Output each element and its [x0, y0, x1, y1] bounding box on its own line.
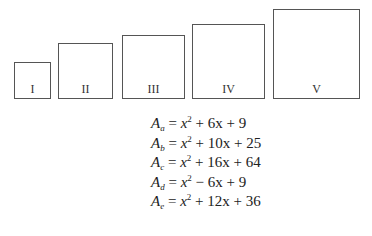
eq-equals: =: [164, 154, 180, 170]
area-equations: Aa = x2 + 6x + 9 Ab = x2 + 10x + 25 Ac =…: [151, 114, 261, 212]
eq-equals: =: [164, 193, 180, 209]
square-label: II: [59, 82, 112, 97]
equation-d: Ad = x2 − 6x + 9: [151, 173, 261, 193]
square-label: I: [15, 82, 50, 97]
equation-e: Ae = x2 + 12x + 36: [151, 192, 261, 212]
square-iii: III: [122, 35, 185, 99]
eq-rest: − 6x + 9: [192, 174, 246, 190]
eq-rest: + 6x + 9: [192, 115, 246, 131]
eq-var: A: [151, 135, 160, 151]
eq-var: A: [151, 154, 160, 170]
equation-a: Aa = x2 + 6x + 9: [151, 114, 261, 134]
eq-x: x: [180, 154, 187, 170]
square-label: III: [123, 82, 184, 97]
equation-b: Ab = x2 + 10x + 25: [151, 134, 261, 154]
eq-equals: =: [165, 135, 181, 151]
square-label: V: [274, 82, 359, 97]
eq-x: x: [180, 193, 187, 209]
square-iv: IV: [192, 24, 265, 99]
eq-equals: =: [165, 174, 181, 190]
eq-equals: =: [165, 115, 181, 131]
eq-rest: + 16x + 64: [191, 154, 260, 170]
square-ii: II: [58, 43, 113, 99]
square-v: V: [273, 9, 360, 99]
eq-rest: + 10x + 25: [192, 135, 261, 151]
eq-rest: + 12x + 36: [191, 193, 260, 209]
square-label: IV: [193, 82, 264, 97]
eq-var: A: [151, 174, 160, 190]
equation-c: Ac = x2 + 16x + 64: [151, 153, 261, 173]
eq-var: A: [151, 115, 160, 131]
eq-var: A: [151, 193, 160, 209]
square-i: I: [14, 62, 51, 99]
